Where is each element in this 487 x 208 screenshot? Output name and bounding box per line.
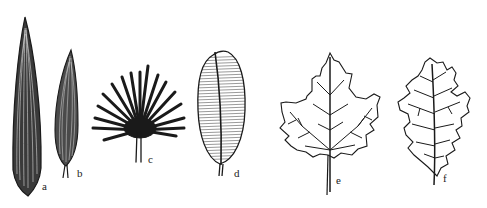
- leaf-e-drawing: [280, 53, 380, 195]
- leaf-d-drawing: [195, 51, 250, 176]
- leaf-f-drawing: [398, 58, 470, 185]
- label-a: a: [42, 181, 47, 192]
- leaf-a-drawing: [13, 17, 41, 196]
- label-d: d: [234, 168, 240, 179]
- leaf-venation-figure: a b c d e f: [0, 0, 487, 208]
- leaf-drawings: [0, 0, 487, 208]
- label-e: e: [336, 175, 341, 186]
- leaf-b-drawing: [55, 50, 78, 178]
- leaf-c-drawing: [93, 66, 184, 162]
- label-f: f: [443, 173, 447, 184]
- label-b: b: [77, 168, 83, 179]
- label-c: c: [148, 154, 153, 165]
